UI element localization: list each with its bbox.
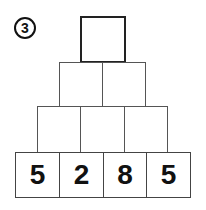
pyramid-cell-base-3: 8	[103, 152, 147, 198]
pyramid-cell-base-4: 5	[146, 152, 191, 198]
pyramid-cell-r2-c2[interactable]	[80, 106, 125, 153]
pyramid-cell-r1-c1[interactable]	[59, 62, 103, 107]
pyramid-cell-r2-c3[interactable]	[124, 106, 168, 153]
pyramid-cell-top[interactable]	[80, 16, 126, 63]
problem-number-badge: 3	[14, 17, 36, 39]
pyramid-cell-base-1: 5	[15, 152, 60, 198]
pyramid-cell-r1-c2[interactable]	[102, 62, 146, 107]
pyramid-cell-r2-c1[interactable]	[37, 106, 81, 153]
pyramid-cell-base-2: 2	[59, 152, 104, 198]
